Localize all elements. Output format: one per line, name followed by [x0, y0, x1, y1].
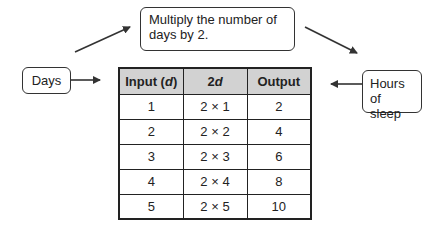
input-label-text: Days	[32, 73, 62, 88]
cell-input: 1	[119, 94, 183, 119]
header-input-suffix: )	[173, 74, 177, 89]
cell-expression: 2 × 3	[183, 144, 247, 169]
header-input-prefix: Input (	[125, 74, 165, 89]
cell-expression: 2 × 1	[183, 94, 247, 119]
input-output-table: Input (d) 2d Output 1 2 × 1 2 2 2 × 2 4 …	[118, 67, 312, 220]
cell-expression: 2 × 5	[183, 194, 247, 219]
cell-output: 2	[247, 94, 311, 119]
cell-output: 4	[247, 119, 311, 144]
cell-output: 10	[247, 194, 311, 219]
table-row: 3 2 × 3 6	[119, 144, 311, 169]
table-row: 4 2 × 4 8	[119, 169, 311, 194]
header-input: Input (d)	[119, 68, 183, 94]
cell-expression: 2 × 2	[183, 119, 247, 144]
cell-expression: 2 × 4	[183, 169, 247, 194]
table-row: 2 2 × 2 4	[119, 119, 311, 144]
header-input-var: d	[165, 74, 173, 89]
cell-input: 5	[119, 194, 183, 219]
table-header-row: Input (d) 2d Output	[119, 68, 311, 94]
cell-input: 2	[119, 119, 183, 144]
header-rule: 2d	[183, 68, 247, 94]
arrow-rule-to-hours	[305, 27, 357, 53]
cell-output: 6	[247, 144, 311, 169]
rule-line-2: days by 2.	[149, 27, 286, 42]
table-row: 5 2 × 5 10	[119, 194, 311, 219]
header-rule-coef: 2	[207, 74, 214, 89]
rule-line-1: Multiply the number of	[149, 12, 286, 27]
cell-input: 4	[119, 169, 183, 194]
input-label-callout: Days	[22, 67, 71, 94]
rule-callout: Multiply the number of days by 2.	[140, 7, 295, 51]
table-row: 1 2 × 1 2	[119, 94, 311, 119]
output-label-line-2: of sleep	[370, 91, 414, 121]
header-output: Output	[247, 68, 311, 94]
output-label-callout: Hours of sleep	[362, 70, 422, 113]
header-rule-var: d	[215, 74, 223, 89]
arrow-days-to-rule	[75, 27, 130, 52]
cell-output: 8	[247, 169, 311, 194]
cell-input: 3	[119, 144, 183, 169]
output-label-line-1: Hours	[370, 76, 414, 91]
